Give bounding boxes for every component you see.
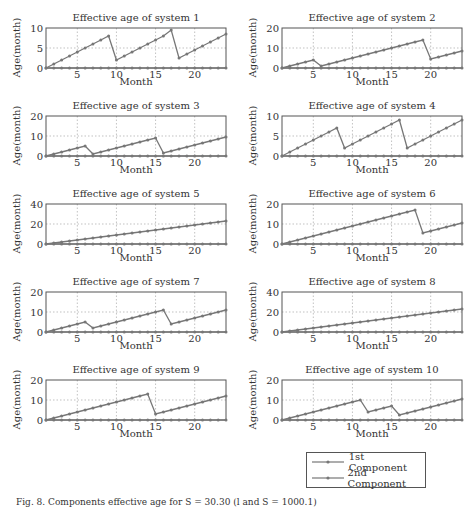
svg-text:40: 40 xyxy=(30,199,43,210)
svg-text:0: 0 xyxy=(273,63,279,74)
svg-text:20: 20 xyxy=(266,23,279,34)
x-axis-label: Month xyxy=(282,76,462,87)
y-axis-label: Age(month) xyxy=(247,370,258,430)
chart-title: Effective age of system 5 xyxy=(46,188,226,199)
line-marker-icon xyxy=(311,474,344,482)
x-axis-label: Month xyxy=(46,252,226,263)
svg-text:20: 20 xyxy=(266,307,279,318)
svg-text:0: 0 xyxy=(37,415,43,426)
x-axis-label: Month xyxy=(46,164,226,175)
x-axis-label: Month xyxy=(282,164,462,175)
chart-panel-system-4: 51015200510 Effective age of system 4 Ag… xyxy=(236,88,472,176)
x-axis-label: Month xyxy=(282,428,462,439)
svg-text:10: 10 xyxy=(30,307,43,318)
svg-text:0: 0 xyxy=(37,151,43,162)
x-axis-label: Month xyxy=(282,252,462,263)
chart-panel-system-9: 510152001020 Effective age of system 9 A… xyxy=(0,352,236,440)
chart-title: Effective age of system 1 xyxy=(46,12,226,23)
y-axis-label: Age(month) xyxy=(11,282,22,342)
svg-text:10: 10 xyxy=(30,395,43,406)
y-axis-label: Age(month) xyxy=(247,18,258,78)
y-axis-label: Age(month) xyxy=(11,194,22,254)
svg-text:10: 10 xyxy=(30,23,43,34)
x-axis-label: Month xyxy=(46,340,226,351)
chart-title: Effective age of system 8 xyxy=(282,276,462,287)
svg-text:10: 10 xyxy=(266,111,279,122)
svg-text:0: 0 xyxy=(273,415,279,426)
chart-panel-system-2: 510152001020 Effective age of system 2 A… xyxy=(236,0,472,88)
chart-panel-system-5: 510152002040 Effective age of system 5 A… xyxy=(0,176,236,264)
figure-caption: Fig. 8. Components effective age for S =… xyxy=(16,497,317,507)
svg-text:5: 5 xyxy=(37,43,43,54)
chart-panel-system-7: 510152001020 Effective age of system 7 A… xyxy=(0,264,236,352)
chart-title: Effective age of system 6 xyxy=(282,188,462,199)
svg-text:20: 20 xyxy=(30,219,43,230)
svg-text:10: 10 xyxy=(266,219,279,230)
svg-text:0: 0 xyxy=(273,327,279,338)
chart-title: Effective age of system 2 xyxy=(282,12,462,23)
chart-panel-system-6: 510152001020 Effective age of system 6 A… xyxy=(236,176,472,264)
svg-text:20: 20 xyxy=(30,375,43,386)
y-axis-label: Age(month) xyxy=(11,18,22,78)
svg-text:10: 10 xyxy=(266,395,279,406)
svg-text:10: 10 xyxy=(266,43,279,54)
legend: 1st Component 2nd Component xyxy=(306,452,426,488)
chart-panel-system-8: 510152002040 Effective age of system 8 A… xyxy=(236,264,472,352)
chart-title: Effective age of system 9 xyxy=(46,364,226,375)
x-axis-label: Month xyxy=(46,428,226,439)
chart-title: Effective age of system 10 xyxy=(282,364,462,375)
y-axis-label: Age(month) xyxy=(247,282,258,342)
svg-text:40: 40 xyxy=(266,287,279,298)
svg-text:20: 20 xyxy=(266,199,279,210)
svg-text:20: 20 xyxy=(30,287,43,298)
chart-title: Effective age of system 3 xyxy=(46,100,226,111)
svg-text:10: 10 xyxy=(30,131,43,142)
svg-text:5: 5 xyxy=(273,131,279,142)
legend-label: 2nd Component xyxy=(348,467,425,489)
chart-title: Effective age of system 4 xyxy=(282,100,462,111)
svg-text:0: 0 xyxy=(273,151,279,162)
svg-text:20: 20 xyxy=(30,111,43,122)
legend-item-2nd-component: 2nd Component xyxy=(311,471,425,485)
y-axis-label: Age(month) xyxy=(247,194,258,254)
chart-title: Effective age of system 7 xyxy=(46,276,226,287)
y-axis-label: Age(month) xyxy=(11,106,22,166)
svg-text:0: 0 xyxy=(37,63,43,74)
chart-panel-system-10: 510152001020 Effective age of system 10 … xyxy=(236,352,472,440)
y-axis-label: Age(month) xyxy=(11,370,22,430)
svg-text:20: 20 xyxy=(266,375,279,386)
line-marker-icon xyxy=(311,458,345,466)
y-axis-label: Age(month) xyxy=(247,106,258,166)
svg-text:0: 0 xyxy=(37,239,43,250)
chart-panel-system-3: 510152001020 Effective age of system 3 A… xyxy=(0,88,236,176)
svg-text:0: 0 xyxy=(37,327,43,338)
chart-panel-system-1: 51015200510 Effective age of system 1 Ag… xyxy=(0,0,236,88)
x-axis-label: Month xyxy=(282,340,462,351)
svg-text:0: 0 xyxy=(273,239,279,250)
x-axis-label: Month xyxy=(46,76,226,87)
